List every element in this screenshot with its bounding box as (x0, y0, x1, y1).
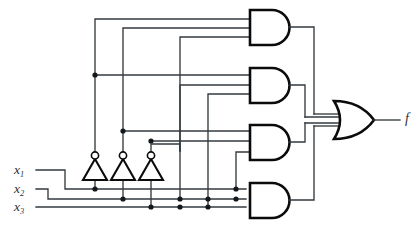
and-gate-2 (250, 68, 290, 103)
circuit-svg (0, 0, 418, 238)
input-label-x3: x3 (14, 199, 24, 216)
input-label-x2: x2 (14, 181, 24, 198)
wire-and1-out (289, 27, 314, 114)
circuit-diagram: x1 x2 x3 f (0, 0, 418, 238)
and-gate-3 (250, 125, 290, 160)
wire-x3-to-and2 (208, 94, 250, 207)
wire-and3-out (289, 123, 305, 142)
wire-not-x2 (123, 28, 250, 151)
wire-x1-to-and3 (236, 152, 250, 189)
output-label-f: f (405, 111, 409, 127)
input-label-x1: x1 (14, 162, 24, 179)
wire-x2-to-and2 (180, 85, 250, 199)
inverter-1 (83, 152, 107, 180)
wire-and2-out (289, 85, 305, 117)
wire-and4-out (289, 126, 314, 200)
and-gate-1 (250, 10, 290, 45)
inverter-2 (111, 152, 135, 180)
wire-not-x3-stub (151, 144, 180, 151)
wire-x2 (36, 189, 246, 199)
or-gate (334, 101, 374, 139)
and-gate-4 (250, 183, 290, 218)
inverter-3 (139, 152, 163, 180)
